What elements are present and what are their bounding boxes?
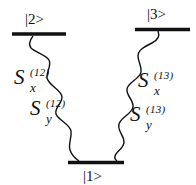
operator-superscript: (13)	[154, 70, 174, 81]
operator-symbol: S	[30, 98, 41, 119]
level-2-label: |2>	[25, 12, 44, 27]
operator-superscript: (12)	[46, 98, 66, 109]
operator-symbol: S	[14, 67, 25, 88]
label-sy-13: S (13) y	[130, 104, 175, 132]
level-3-label: |3>	[147, 7, 166, 22]
label-sy-12: S (12) y	[30, 98, 70, 126]
operator-symbol: S	[138, 70, 149, 91]
energy-level-diagram: |2> |3> |1> S (12) x S (12) y S (13) x S…	[0, 0, 196, 185]
operator-subscript: x	[30, 81, 36, 94]
label-sx-13: S (13) x	[138, 70, 183, 98]
operator-subscript: y	[146, 118, 152, 131]
operator-subscript: x	[154, 84, 160, 97]
operator-symbol: S	[130, 104, 141, 125]
operator-subscript: y	[46, 112, 52, 125]
label-sx-12: S (12) x	[14, 67, 54, 95]
level-1-label: |1>	[83, 169, 102, 184]
operator-superscript: (12)	[30, 67, 50, 78]
operator-superscript: (13)	[146, 104, 166, 115]
